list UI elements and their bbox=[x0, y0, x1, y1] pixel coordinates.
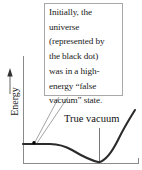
callout-box: Initially, the universe (represented by … bbox=[44, 3, 123, 96]
callout-line-4: the black dot) bbox=[45, 48, 122, 63]
callout-line-3: (represented by bbox=[45, 33, 122, 48]
callout-line-1: Initially, the bbox=[45, 4, 122, 19]
callout-line-6: energy “false bbox=[45, 78, 122, 93]
callout-line-5: was in a high- bbox=[45, 63, 122, 78]
false-vacuum-dot bbox=[32, 141, 35, 144]
false-vacuum-diagram: Energy True vacuum Initially, the univer… bbox=[0, 0, 142, 170]
y-axis-label: Energy bbox=[9, 74, 20, 130]
callout-line-7: vacuum” state. bbox=[45, 92, 122, 107]
callout-line-2: universe bbox=[45, 19, 122, 34]
true-vacuum-label: True vacuum bbox=[64, 113, 119, 124]
